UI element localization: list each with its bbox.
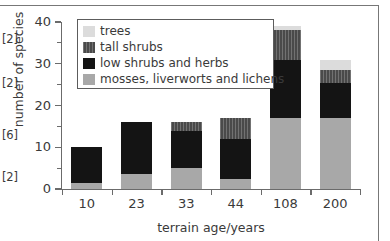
y-tick-10: [55, 147, 61, 148]
x-tick-5: [310, 190, 311, 195]
y-minor-tick-35: [57, 42, 61, 43]
x-tick-3: [211, 190, 212, 195]
y-tick-label-40: 40: [27, 15, 51, 28]
legend-label: mosses, liverworts and lichens: [100, 73, 284, 85]
y-tick-20: [55, 105, 61, 106]
bar-segment-108-tall-shrubs: [270, 30, 301, 59]
bar-segment-10-low-shrubs-and-herbs: [71, 147, 102, 182]
y-minor-tick-5: [57, 168, 61, 169]
bar-segment-108-trees: [270, 26, 301, 30]
bar-segment-44-low-shrubs-and-herbs: [220, 139, 251, 179]
legend-item-trees[interactable]: trees: [83, 23, 269, 39]
x-tick-label-108: 108: [261, 197, 311, 210]
legend-swatch-icon: [83, 26, 95, 37]
y-minor-tick-15: [57, 126, 61, 127]
bar-segment-44-tall-shrubs: [220, 118, 251, 139]
stacked-bar-chart: number of species 010203040 102333441082…: [0, 0, 378, 241]
x-tick-label-10: 10: [62, 197, 112, 210]
bar-segment-200-tall-shrubs: [320, 70, 351, 83]
x-axis-title: terrain age/years: [62, 220, 360, 235]
bar-segment-33-mosses: [171, 168, 202, 189]
bar-23: [121, 122, 152, 189]
bar-segment-200-mosses: [320, 118, 351, 189]
legend-item-low-shrubs-and-herbs[interactable]: low shrubs and herbs: [83, 55, 269, 71]
bar-segment-10-mosses: [71, 183, 102, 189]
bar-44: [220, 118, 251, 189]
legend-label: trees: [100, 25, 130, 37]
bar-segment-23-low-shrubs-and-herbs: [121, 122, 152, 174]
legend-item-mosses[interactable]: mosses, liverworts and lichens: [83, 71, 269, 87]
bar-segment-44-mosses: [220, 179, 251, 189]
x-tick-6: [360, 190, 361, 195]
legend-item-tall-shrubs[interactable]: tall shrubs: [83, 39, 269, 55]
bar-segment-108-mosses: [270, 118, 301, 189]
x-tick-label-33: 33: [161, 197, 211, 210]
page-frame-right-rule: [378, 5, 379, 241]
bar-segment-200-trees: [320, 60, 351, 70]
bar-33: [171, 122, 202, 189]
y-tick-label-10: 10: [27, 140, 51, 153]
x-tick-0: [62, 190, 63, 195]
legend-swatch-icon: [83, 74, 95, 85]
bar-segment-33-low-shrubs-and-herbs: [171, 131, 202, 169]
legend-swatch-icon: [83, 58, 95, 69]
legend-label: low shrubs and herbs: [100, 57, 229, 69]
y-tick-30: [55, 63, 61, 64]
bar-10: [71, 147, 102, 189]
x-tick-2: [161, 190, 162, 195]
bar-200: [320, 60, 351, 189]
y-tick-0: [55, 188, 61, 189]
legend-swatch-icon: [83, 42, 95, 53]
x-tick-4: [261, 190, 262, 195]
bar-segment-33-tall-shrubs: [171, 122, 202, 130]
y-tick-label-30: 30: [27, 57, 51, 70]
x-tick-label-44: 44: [211, 197, 261, 210]
y-minor-tick-25: [57, 84, 61, 85]
bar-segment-200-low-shrubs-and-herbs: [320, 83, 351, 118]
y-tick-40: [55, 21, 61, 22]
y-tick-label-0: 0: [27, 182, 51, 195]
chart-legend: treestall shrubslow shrubs and herbsmoss…: [77, 19, 274, 89]
legend-label: tall shrubs: [100, 41, 163, 53]
x-tick-1: [112, 190, 113, 195]
x-tick-label-23: 23: [112, 197, 162, 210]
y-axis-tick-labels: 010203040: [24, 0, 51, 241]
bar-108: [270, 26, 301, 189]
x-tick-label-200: 200: [310, 197, 360, 210]
y-tick-label-20: 20: [27, 99, 51, 112]
bar-segment-23-mosses: [121, 174, 152, 189]
bar-segment-108-low-shrubs-and-herbs: [270, 60, 301, 118]
